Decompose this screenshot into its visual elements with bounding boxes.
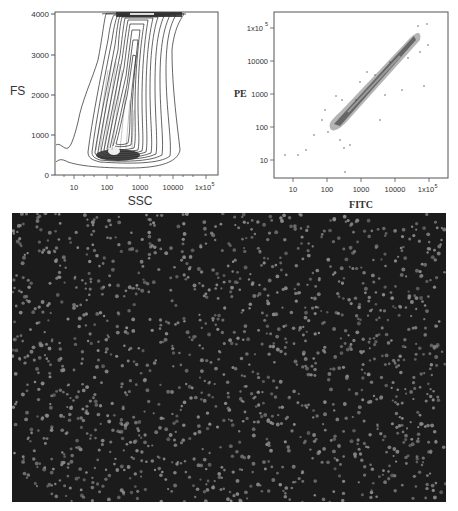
svg-text:1x10: 1x10	[418, 185, 434, 194]
svg-text:1000: 1000	[353, 185, 370, 194]
svg-text:2000: 2000	[31, 91, 49, 100]
svg-text:5: 5	[265, 21, 268, 27]
y-tick-labels: 0 1000 2000 3000 4000	[31, 10, 49, 180]
svg-text:1x10: 1x10	[195, 183, 211, 192]
x-axis-ticks	[64, 175, 206, 179]
x-axis-label: FITC	[349, 199, 373, 210]
svg-text:10000: 10000	[385, 185, 406, 194]
svg-text:10000: 10000	[163, 183, 184, 192]
fs-ssc-contour-plot: 0 1000 2000 3000 4000 FS 10 100 1000 100…	[0, 0, 230, 205]
svg-text:100: 100	[101, 183, 114, 192]
svg-text:10: 10	[260, 156, 268, 165]
svg-text:5: 5	[211, 181, 214, 187]
fluorescence-micrograph	[12, 213, 446, 502]
y-axis-ticks	[51, 14, 55, 175]
particle-field	[12, 213, 446, 502]
svg-text:10000: 10000	[247, 57, 268, 66]
svg-text:5: 5	[434, 183, 437, 189]
svg-text:10: 10	[70, 183, 78, 192]
y-axis-label: PE	[234, 88, 247, 99]
x-axis-ticks	[293, 178, 429, 182]
pe-fitc-scatter-plot: 1x10 5 10000 1000 100 10 PE 10 100 1000 …	[230, 0, 458, 210]
x-tick-labels: 10 100 1000 10000 1x10 5	[289, 183, 438, 194]
svg-text:100: 100	[255, 123, 268, 132]
svg-text:4000: 4000	[31, 10, 49, 19]
svg-text:10: 10	[289, 185, 297, 194]
svg-text:1000: 1000	[132, 183, 149, 192]
contour-lines	[56, 13, 186, 168]
scatter-population	[330, 33, 421, 130]
y-axis-ticks	[270, 28, 274, 160]
y-tick-labels: 1x10 5 10000 1000 100 10	[247, 21, 268, 165]
svg-text:0: 0	[45, 171, 50, 180]
svg-text:1000: 1000	[251, 90, 268, 99]
svg-text:1x10: 1x10	[247, 24, 263, 33]
y-axis-label: FS	[10, 84, 25, 98]
svg-text:3000: 3000	[31, 51, 49, 60]
x-axis-label: SSC	[128, 194, 153, 205]
x-tick-labels: 10 100 1000 10000 1x10 5	[70, 181, 215, 192]
svg-text:100: 100	[321, 185, 334, 194]
svg-text:1000: 1000	[31, 131, 49, 140]
